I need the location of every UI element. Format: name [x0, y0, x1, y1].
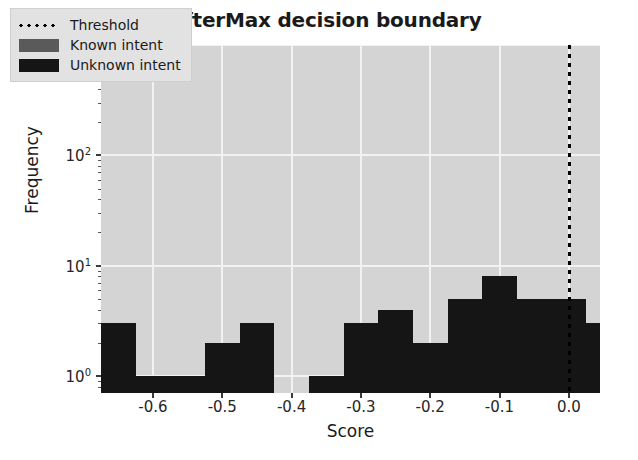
- x-tick-label: 0.0: [557, 398, 581, 416]
- x-tick-mark: [499, 393, 501, 398]
- legend: Threshold Known intent Unknown intent: [10, 8, 192, 82]
- x-axis-title: Score: [101, 421, 600, 441]
- y-tick-label: 101: [66, 256, 91, 275]
- plot-area: [101, 45, 600, 393]
- x-tick-label: -0.5: [208, 398, 237, 416]
- histogram-bar: [205, 343, 240, 393]
- legend-label: Threshold: [70, 17, 139, 33]
- color-swatch-icon: [19, 59, 59, 72]
- x-tick-label: -0.2: [416, 398, 445, 416]
- gridline-vertical: [152, 45, 154, 393]
- legend-label: Unknown intent: [70, 57, 181, 73]
- x-tick-mark: [568, 393, 570, 398]
- figure: SofterMax decision boundary Frequency 10…: [0, 0, 638, 460]
- histogram-bar: [309, 376, 344, 393]
- y-tick-label: 102: [66, 146, 91, 165]
- histogram-bar: [482, 276, 517, 393]
- color-swatch-icon: [19, 39, 59, 52]
- x-tick-mark: [291, 393, 293, 398]
- histogram-bar: [378, 310, 413, 393]
- histogram-bar: [586, 323, 600, 393]
- y-tick-label: 100: [66, 366, 91, 385]
- histogram-bar: [170, 376, 205, 393]
- dotted-line-icon: [19, 19, 59, 32]
- gridline-vertical: [291, 45, 293, 393]
- histogram-bar: [240, 323, 275, 393]
- threshold-line: [568, 45, 571, 393]
- legend-item-unknown-intent: Unknown intent: [19, 55, 181, 75]
- y-axis-title: Frequency: [22, 60, 42, 280]
- x-tick-mark: [429, 393, 431, 398]
- gridline-horizontal: [101, 265, 600, 267]
- x-tick-mark: [360, 393, 362, 398]
- histogram-bar: [413, 343, 448, 393]
- gridline-vertical: [429, 45, 431, 393]
- legend-item-known-intent: Known intent: [19, 35, 181, 55]
- x-tick-label: -0.3: [346, 398, 375, 416]
- x-tick-label: -0.1: [485, 398, 514, 416]
- x-tick-label: -0.6: [138, 398, 167, 416]
- x-tick-mark: [221, 393, 223, 398]
- legend-item-threshold: Threshold: [19, 15, 181, 35]
- histogram-bar: [517, 299, 552, 393]
- gridline-horizontal: [101, 154, 600, 156]
- x-tick-mark: [152, 393, 154, 398]
- histogram-bar: [344, 323, 379, 393]
- histogram-bar: [448, 299, 483, 393]
- x-tick-label: -0.4: [277, 398, 306, 416]
- histogram-bar: [101, 323, 136, 393]
- legend-label: Known intent: [70, 37, 163, 53]
- gridline-vertical: [221, 45, 223, 393]
- histogram-bar: [136, 376, 171, 393]
